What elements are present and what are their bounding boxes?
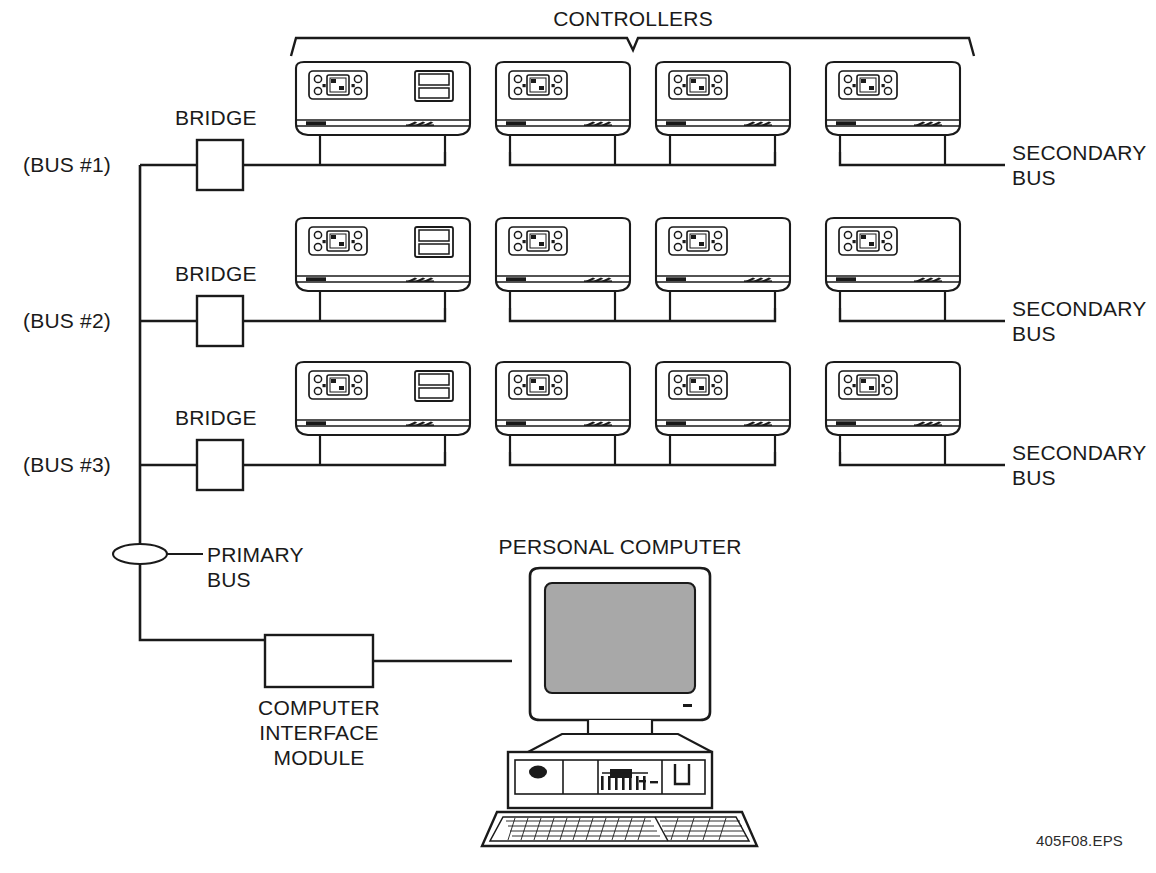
secondary-bus-label-1-line2: BUS [1012, 165, 1056, 190]
personal-computer-label: PERSONAL COMPUTER [490, 534, 750, 559]
diagram-vector-layer [0, 0, 1156, 873]
eps-figure-tag: 405F08.EPS [1036, 828, 1123, 853]
monitor-screen [545, 583, 695, 693]
controller-device [496, 218, 630, 291]
bus-label-2: (BUS #2) [23, 308, 111, 333]
controller-device [826, 362, 960, 435]
controller-device [296, 218, 470, 291]
bus-row-2 [140, 218, 1005, 346]
bus-label-3: (BUS #3) [23, 452, 111, 477]
controller-device [656, 218, 790, 291]
controller-device [656, 62, 790, 135]
controller-device [656, 362, 790, 435]
bridge-label-1: BRIDGE [175, 105, 257, 130]
bridge-box [197, 296, 243, 346]
controller-device [296, 62, 470, 135]
controller-device [826, 218, 960, 291]
personal-computer-illustration [482, 568, 757, 846]
controller-device [496, 62, 630, 135]
primary-bus-label-line2: BUS [207, 567, 251, 592]
controller-device [826, 62, 960, 135]
secondary-bus-label-2-line2: BUS [1012, 321, 1056, 346]
bus-row-1 [140, 62, 1005, 190]
controller-device [296, 362, 470, 435]
bridge-box [197, 140, 243, 190]
bus-row-3 [140, 362, 1005, 490]
interface-module-label-line1: COMPUTER [229, 695, 409, 720]
network-diagram-canvas: CONTROLLERS (BUS #1) BRIDGE SECONDARY BU… [0, 0, 1156, 873]
controllers-bracket-label: CONTROLLERS [518, 6, 748, 31]
controller-device [496, 362, 630, 435]
secondary-bus-label-3-line2: BUS [1012, 465, 1056, 490]
computer-interface-module [265, 635, 512, 687]
secondary-bus-label-3-line1: SECONDARY [1012, 440, 1146, 465]
interface-module-label-line3: MODULE [229, 745, 409, 770]
primary-bus-marker [113, 544, 167, 564]
bridge-box [197, 440, 243, 490]
bus-label-1: (BUS #1) [23, 152, 111, 177]
secondary-bus-label-1-line1: SECONDARY [1012, 140, 1146, 165]
primary-bus-label-line1: PRIMARY [207, 542, 304, 567]
interface-module-label-line2: INTERFACE [229, 720, 409, 745]
bridge-label-2: BRIDGE [175, 261, 257, 286]
controllers-bracket [291, 38, 974, 56]
bridge-label-3: BRIDGE [175, 405, 257, 430]
secondary-bus-label-2-line1: SECONDARY [1012, 296, 1146, 321]
